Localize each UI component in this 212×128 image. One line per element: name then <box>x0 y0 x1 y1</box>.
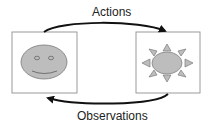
smiley-face-icon <box>21 45 67 79</box>
actions-arrow <box>44 23 165 32</box>
observations-label: Observations <box>77 110 148 122</box>
environment-box <box>136 32 200 93</box>
actions-label: Actions <box>92 6 131 18</box>
agent-box <box>12 32 77 93</box>
sun-icon <box>142 44 193 82</box>
observations-arrow <box>48 94 168 104</box>
